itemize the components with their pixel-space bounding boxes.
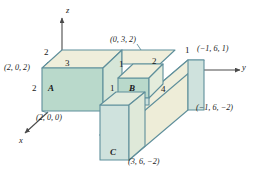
dim-top-2: 2 xyxy=(152,57,157,66)
dim-height-3: 3 xyxy=(65,59,70,68)
dim-mid-1-upper: 1 xyxy=(119,60,124,69)
solid-block-c xyxy=(100,92,145,160)
face-b-label: B xyxy=(129,84,135,93)
point-3-6-n2: (3, 6, −2) xyxy=(128,158,159,166)
face-a-label: A xyxy=(48,84,54,93)
dim-top-left-2: 2 xyxy=(44,48,49,57)
block-b-top-face xyxy=(122,50,175,64)
leader-0-3-2 xyxy=(137,44,141,50)
point-n1-6-n2: (−1, 6, −2) xyxy=(196,104,233,112)
dim-mid-1-lower: 1 xyxy=(110,84,115,93)
x-axis-label: x xyxy=(19,136,23,145)
dim-right-1: 1 xyxy=(185,46,190,55)
z-axis-label: z xyxy=(66,6,69,15)
point-2-0-2: (2, 0, 2) xyxy=(4,64,30,72)
dim-slab-4: 4 xyxy=(161,85,166,94)
diagram-svg xyxy=(0,0,255,178)
y-axis-label: y xyxy=(242,63,246,72)
dim-left-2: 2 xyxy=(32,84,37,93)
face-c-label: C xyxy=(110,148,116,157)
point-0-3-2: (0, 3, 2) xyxy=(110,36,136,44)
point-2-0-0: (2, 0, 0) xyxy=(36,114,62,122)
point-n1-6-1: (−1, 6, 1) xyxy=(197,45,228,53)
figure-canvas: z y x A B C 2 3 2 1 1 2 1 4 (2, 0, 2) (2… xyxy=(0,0,255,178)
